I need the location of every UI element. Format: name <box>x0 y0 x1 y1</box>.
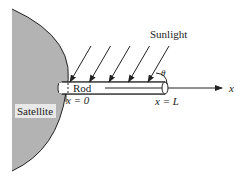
theta-label: θ <box>161 68 166 78</box>
sunlight-ray <box>148 46 169 82</box>
x-start-label: x = 0 <box>65 94 90 106</box>
x-axis-label: x <box>228 82 234 94</box>
sunlight-label: Sunlight <box>150 28 187 40</box>
satellite-rod-diagram: Satellite x Rod x = 0 x = L Sunlight θ <box>0 0 246 180</box>
sunlight-ray <box>90 46 111 82</box>
sunlight-ray <box>70 46 91 82</box>
x-end-label: x = L <box>154 95 179 107</box>
rod-label: Rod <box>73 82 92 94</box>
sunlight-ray <box>129 46 150 82</box>
sunlight-ray <box>109 46 130 82</box>
satellite-label: Satellite <box>17 105 53 117</box>
sunlight-rays <box>70 46 169 82</box>
